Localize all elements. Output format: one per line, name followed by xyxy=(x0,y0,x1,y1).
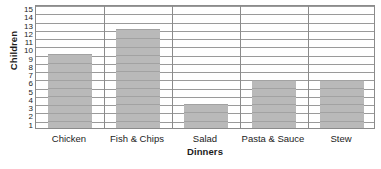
bar-gridline xyxy=(48,63,93,64)
bar-gridline xyxy=(116,104,161,105)
bar-gridline xyxy=(48,80,93,81)
bar-fish-chips xyxy=(116,29,161,128)
bar-gridline xyxy=(184,112,229,113)
bar-gridline xyxy=(252,96,297,97)
y-tick-label: 3 xyxy=(16,105,33,113)
bar-gridline xyxy=(116,47,161,48)
bar-gridline xyxy=(320,88,365,89)
bar-gridline-overlay xyxy=(48,55,93,128)
bar-gridline xyxy=(116,121,161,122)
y-tick-label: 7 xyxy=(16,72,33,80)
y-tick-label: 6 xyxy=(16,80,33,88)
bar-gridline xyxy=(252,88,297,89)
bar-gridline xyxy=(320,104,365,105)
bar-gridline-overlay xyxy=(252,81,297,128)
y-tick-label: 11 xyxy=(16,39,33,47)
y-tick-label: 8 xyxy=(16,64,33,72)
x-tick-label: Chicken xyxy=(35,133,103,145)
bar-gridline xyxy=(48,105,93,106)
y-tick-label: 5 xyxy=(16,89,33,97)
y-tick-label: 2 xyxy=(16,113,33,121)
bar-gridline-overlay xyxy=(320,81,365,128)
y-tick-label: 9 xyxy=(16,56,33,64)
x-axis-title: Dinners xyxy=(35,146,375,157)
bar-gridline xyxy=(320,112,365,113)
x-tick-label: Stew xyxy=(307,133,375,145)
y-axis-tick-labels: 123456789101112131415 xyxy=(16,5,33,129)
y-tick-label: 14 xyxy=(16,14,33,22)
bar-chart: Children 123456789101112131415 ChickenFi… xyxy=(0,0,381,169)
bar-chicken xyxy=(48,54,93,128)
plot-area xyxy=(35,5,375,129)
bars-layer xyxy=(36,6,374,128)
bar-gridline xyxy=(48,96,93,97)
x-tick-label: Fish & Chips xyxy=(103,133,171,145)
bar-gridline xyxy=(116,80,161,81)
bar-gridline xyxy=(116,96,161,97)
bar-gridline xyxy=(48,72,93,73)
bar-gridline xyxy=(320,96,365,97)
x-axis-tick-labels: ChickenFish & ChipsSaladPasta & SauceSte… xyxy=(35,133,375,147)
bar-gridline xyxy=(48,113,93,114)
bar-gridline xyxy=(116,55,161,56)
bar-gridline-overlay xyxy=(184,105,229,128)
y-tick-label: 13 xyxy=(16,23,33,31)
bar-gridline xyxy=(320,121,365,122)
y-tick-label: 15 xyxy=(16,6,33,14)
bar-gridline xyxy=(116,113,161,114)
x-tick-label: Pasta & Sauce xyxy=(239,133,307,145)
y-tick-label: 1 xyxy=(16,122,33,130)
bar-pasta-sauce xyxy=(252,80,297,128)
bar-gridline xyxy=(116,71,161,72)
bar-gridline xyxy=(48,88,93,89)
bar-gridline xyxy=(184,121,229,122)
bar-salad xyxy=(184,104,229,128)
bar-stew xyxy=(320,80,365,128)
x-tick-label: Salad xyxy=(171,133,239,145)
bar-gridline xyxy=(252,104,297,105)
y-tick-label: 4 xyxy=(16,97,33,105)
bar-gridline xyxy=(252,121,297,122)
y-tick-label: 12 xyxy=(16,31,33,39)
bar-gridline xyxy=(48,121,93,122)
y-tick-label: 10 xyxy=(16,47,33,55)
bar-gridline xyxy=(116,63,161,64)
bar-gridline xyxy=(116,88,161,89)
bar-gridline xyxy=(116,38,161,39)
bar-gridline-overlay xyxy=(116,30,161,128)
bar-gridline xyxy=(252,112,297,113)
